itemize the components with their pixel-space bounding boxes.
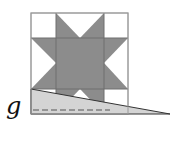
quilt-star-diagram [0, 0, 176, 143]
star-center [56, 38, 104, 89]
label-g: g [6, 94, 21, 118]
